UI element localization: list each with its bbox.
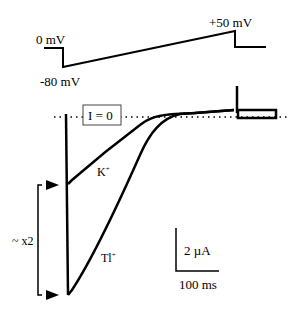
label-plus50mv: +50 mV — [209, 15, 253, 30]
figure-canvas: 0 mV -80 mV +50 mV I = 0 K+ Tl+ ~ x2 2 µ… — [0, 0, 299, 312]
voltage-protocol-trace — [44, 31, 266, 67]
ratio-bracket — [38, 185, 42, 295]
label-potassium: K+ — [97, 165, 110, 179]
ratio-label: ~ x2 — [12, 234, 34, 248]
arrowhead-potassium-peak-icon — [46, 180, 59, 190]
thallium-current-trace — [68, 110, 234, 295]
label-thallium: Tl+ — [101, 251, 116, 265]
scale-bar-time-label: 100 ms — [179, 277, 217, 292]
label-minus80mv: -80 mV — [40, 74, 81, 89]
zero-current-label: I = 0 — [88, 108, 113, 123]
label-0mv: 0 mV — [36, 32, 66, 47]
scale-bar-current-label: 2 µA — [184, 243, 211, 258]
tail-current-box — [238, 110, 276, 118]
arrowhead-thallium-peak-icon — [46, 290, 59, 300]
capacitive-transient — [66, 114, 68, 295]
